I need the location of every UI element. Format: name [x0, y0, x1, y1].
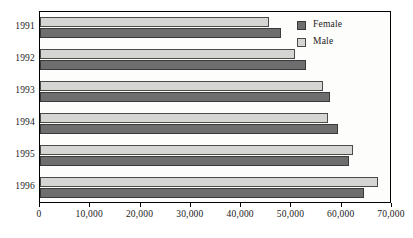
- y-axis-tick-label: 1994: [1, 117, 35, 127]
- x-axis-tick-label: 70,000: [377, 209, 404, 219]
- bar-male[interactable]: [40, 81, 323, 91]
- y-axis-category-labels: 199119921993199419951996: [0, 11, 39, 203]
- bar-group: [40, 174, 390, 202]
- x-axis-tick-label: 30,000: [176, 209, 203, 219]
- bar-group: [40, 78, 390, 106]
- x-axis-tick-label: 40,000: [226, 209, 253, 219]
- bar-group: [40, 142, 390, 170]
- x-axis-tick: [240, 203, 241, 207]
- legend-label: Female: [313, 20, 342, 30]
- x-axis: 010,00020,00030,00040,00050,00060,00070,…: [39, 203, 391, 233]
- bar-male[interactable]: [40, 17, 269, 27]
- bar-male[interactable]: [40, 145, 353, 155]
- legend-swatch-icon: [297, 21, 306, 30]
- x-axis-tick: [39, 203, 40, 207]
- y-axis-tick-label: 1991: [1, 21, 35, 31]
- legend: FemaleMale: [297, 18, 342, 52]
- x-axis-tick: [391, 203, 392, 207]
- bar-female[interactable]: [40, 60, 306, 70]
- bar-female[interactable]: [40, 28, 281, 38]
- x-axis-tick-label: 0: [37, 209, 42, 219]
- y-axis-tick-label: 1992: [1, 53, 35, 63]
- bar-male[interactable]: [40, 177, 378, 187]
- bar-chart: 199119921993199419951996 010,00020,00030…: [0, 0, 413, 238]
- y-axis-tick-label: 1993: [1, 85, 35, 95]
- y-axis-tick-label: 1996: [1, 181, 35, 191]
- bar-female[interactable]: [40, 92, 330, 102]
- x-axis-tick: [89, 203, 90, 207]
- x-axis-tick: [341, 203, 342, 207]
- legend-item[interactable]: Male: [297, 35, 342, 49]
- legend-swatch-icon: [297, 38, 306, 47]
- bar-male[interactable]: [40, 113, 328, 123]
- bar-group: [40, 110, 390, 138]
- x-axis-tick-label: 10,000: [76, 209, 103, 219]
- x-axis-tick: [290, 203, 291, 207]
- bar-female[interactable]: [40, 156, 349, 166]
- y-axis-tick-label: 1995: [1, 149, 35, 159]
- bar-female[interactable]: [40, 124, 338, 134]
- x-axis-tick-label: 50,000: [277, 209, 304, 219]
- bar-male[interactable]: [40, 49, 295, 59]
- bar-female[interactable]: [40, 188, 364, 198]
- x-axis-tick: [190, 203, 191, 207]
- legend-label: Male: [313, 37, 333, 47]
- legend-item[interactable]: Female: [297, 18, 342, 32]
- x-axis-tick-label: 20,000: [126, 209, 153, 219]
- x-axis-tick-label: 60,000: [327, 209, 354, 219]
- x-axis-tick: [140, 203, 141, 207]
